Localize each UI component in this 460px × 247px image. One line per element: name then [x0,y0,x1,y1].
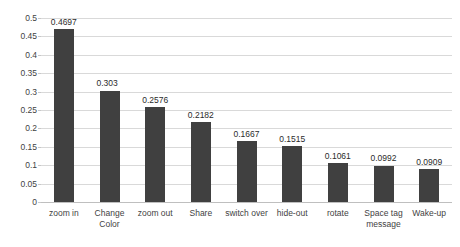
gridline [41,73,452,74]
y-axis-tick-label: 0.2 [0,123,37,133]
x-axis-category-label: Share [178,208,224,219]
y-axis-tick-label: 0 [0,197,37,207]
x-axis-category-label: switch over [224,208,270,219]
bar [374,166,394,203]
y-axis-tick-label: 0.5 [0,13,37,23]
gridline [41,18,452,19]
bar [100,91,120,203]
gridline [41,36,452,37]
x-axis-category-label: Wake-up [406,208,452,219]
y-axis-tick-label: 0.25 [0,105,37,115]
bar-value-label: 0.303 [97,78,118,88]
x-axis-category-label: hide-out [269,208,315,219]
y-axis-tick-label: 0.15 [0,142,37,152]
bar-chart: 00.050.10.150.20.250.30.350.40.450.5 0.4… [0,0,460,247]
x-axis-category-label: Space tag message [361,208,407,230]
plot-area [41,18,452,202]
bar [328,163,348,202]
x-axis-category-label: rotate [315,208,361,219]
x-axis-category-label: Change Color [87,208,133,230]
bar [145,107,165,202]
bar [282,146,302,202]
bar [419,169,439,202]
y-axis-tick-label: 0.05 [0,179,37,189]
y-axis-tick-label: 0.35 [0,68,37,78]
gridline [41,55,452,56]
axis-baseline [41,202,452,203]
x-axis-category-label: zoom in [41,208,87,219]
bar-value-label: 0.1667 [234,129,260,139]
y-axis-tick-label: 0.4 [0,50,37,60]
bar-value-label: 0.0909 [416,157,442,167]
y-axis-tick-label: 0.45 [0,31,37,41]
bar-value-label: 0.2576 [142,95,168,105]
x-axis-category-label: zoom out [132,208,178,219]
bar-value-label: 0.2182 [188,110,214,120]
y-axis-tick-label: 0.3 [0,87,37,97]
bar-value-label: 0.4697 [51,17,77,27]
bar-value-label: 0.1515 [279,134,305,144]
bar-value-label: 0.0992 [371,153,397,163]
y-axis-tick-label: 0.1 [0,160,37,170]
bar [54,29,74,202]
bar [191,122,211,202]
bar [237,141,257,202]
bar-value-label: 0.1061 [325,151,351,161]
